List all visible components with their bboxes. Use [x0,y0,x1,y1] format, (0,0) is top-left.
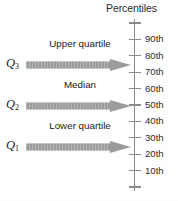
axis-tick-label: 20th [145,149,164,159]
quartile-arrow-icon [26,141,131,153]
quartile-symbol: Q2 [6,97,19,113]
axis-tick-label: 10th [145,166,164,176]
quartile-symbol: Q1 [6,138,19,154]
quartile-symbol-subscript: 2 [15,103,19,112]
quartile-caption: Upper quartile [28,38,132,49]
axis-tick-label: 30th [145,133,164,143]
axis-tick-label: 80th [145,51,164,61]
quartile-symbol-letter: Q [6,56,15,70]
quartile-row: Q1Lower quartile [0,120,134,154]
quartile-arrow-icon [26,59,131,71]
axis-tick [129,170,141,171]
percentile-quartile-figure: Percentiles 90th80th70th60th50th40th30th… [0,0,178,201]
axis-tick-label: 90th [145,34,164,44]
axis-tick [129,22,141,23]
axis-tick-label: 50th [145,100,164,110]
quartile-row: Q3Upper quartile [0,38,134,72]
quartile-caption: Median [28,79,132,90]
quartile-symbol: Q3 [6,56,19,72]
quartile-arrow-icon [26,100,131,112]
quartile-row: Q2Median [0,79,134,113]
quartile-symbol-letter: Q [6,138,15,152]
axis-tick-label: 40th [145,116,164,126]
axis-tick [129,186,141,187]
axis-tick-label: 60th [145,84,164,94]
quartile-symbol-letter: Q [6,97,15,111]
quartile-caption: Lower quartile [28,120,132,131]
axis-title: Percentiles [106,2,157,14]
quartile-symbol-subscript: 1 [15,144,19,153]
axis-tick-label: 70th [145,67,164,77]
quartile-symbol-subscript: 3 [15,62,19,71]
